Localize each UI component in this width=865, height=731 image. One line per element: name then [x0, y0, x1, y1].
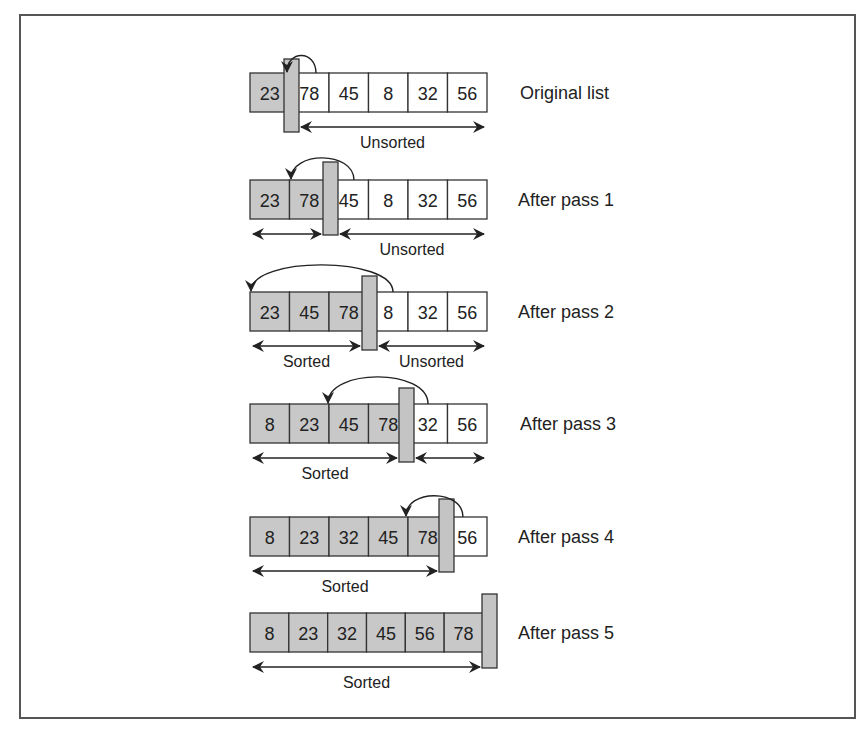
- cell-value: 32: [418, 303, 438, 323]
- cell-value: 32: [418, 84, 438, 104]
- cell-value: 23: [298, 624, 318, 644]
- cell-value: 78: [299, 84, 319, 104]
- array-cell: 56: [448, 404, 488, 443]
- array-cell: 78: [444, 613, 483, 652]
- pass-label: Original list: [520, 83, 609, 103]
- array-cell: 8: [250, 613, 289, 652]
- cell-value: 45: [339, 415, 359, 435]
- array-cell: 32: [408, 73, 448, 112]
- partition-divider: [482, 594, 497, 668]
- array-cell: 8: [250, 404, 290, 443]
- array-cell: 45: [290, 292, 330, 331]
- cell-value: 23: [260, 191, 280, 211]
- array-cell: 32: [408, 180, 448, 219]
- cell-value: 56: [457, 303, 477, 323]
- cell-value: 45: [339, 191, 359, 211]
- cell-value: 45: [376, 624, 396, 644]
- cell-value: 56: [457, 415, 477, 435]
- array-cell: 56: [448, 73, 488, 112]
- array-cell: 56: [448, 180, 488, 219]
- partition-divider: [323, 162, 338, 235]
- array-cell: 32: [328, 613, 367, 652]
- partition-divider: [439, 499, 454, 572]
- partition-divider: [284, 59, 299, 132]
- array-cell: 45: [369, 517, 409, 556]
- array-cell: 56: [405, 613, 444, 652]
- array-cell: 8: [369, 73, 409, 112]
- cell-value: 56: [415, 624, 435, 644]
- cell-value: 8: [383, 84, 393, 104]
- cell-value: 56: [457, 191, 477, 211]
- cell-value: 32: [418, 191, 438, 211]
- cell-value: 32: [418, 415, 438, 435]
- array-cell: 23: [250, 180, 290, 219]
- pass-label: After pass 3: [520, 414, 616, 434]
- pass-row: 23784583256UnsortedOriginal list: [250, 55, 609, 150]
- span-label: Sorted: [301, 465, 348, 482]
- cell-value: 45: [299, 303, 319, 323]
- span-label: Sorted: [321, 578, 368, 595]
- array-cell: 45: [367, 613, 406, 652]
- cell-value: 45: [378, 528, 398, 548]
- cell-value: 32: [337, 624, 357, 644]
- cell-value: 8: [383, 191, 393, 211]
- cell-value: 23: [299, 528, 319, 548]
- pass-label: After pass 2: [518, 302, 614, 322]
- array-cell: 23: [290, 404, 330, 443]
- pass-row: 82332457856SortedAfter pass 4: [250, 496, 614, 595]
- cell-value: 45: [339, 84, 359, 104]
- cell-value: 23: [299, 415, 319, 435]
- array-cell: 23: [250, 292, 290, 331]
- cell-value: 23: [260, 303, 280, 323]
- array-cell: 45: [329, 73, 369, 112]
- array-cell: 8: [369, 180, 409, 219]
- array-cell: 32: [329, 517, 369, 556]
- pass-row: 23457883256SortedUnsortedAfter pass 2: [250, 265, 614, 370]
- cell-value: 23: [260, 84, 280, 104]
- cell-value: 78: [339, 303, 359, 323]
- cell-value: 56: [457, 528, 477, 548]
- array-cell: 23: [290, 517, 330, 556]
- pass-label: After pass 1: [518, 190, 614, 210]
- pass-row: 23784583256UnsortedAfter pass 1: [250, 158, 614, 258]
- array-cell: 45: [329, 404, 369, 443]
- cell-value: 78: [299, 191, 319, 211]
- pass-label: After pass 5: [518, 623, 614, 643]
- array-cell: 8: [250, 517, 290, 556]
- pass-label: After pass 4: [518, 527, 614, 547]
- cell-value: 8: [383, 303, 393, 323]
- span-label: Unsorted: [399, 353, 464, 370]
- cell-value: 32: [339, 528, 359, 548]
- pass-row: 82332455678SortedAfter pass 5: [250, 594, 614, 691]
- array-cell: 56: [448, 292, 488, 331]
- cell-value: 56: [457, 84, 477, 104]
- span-label: Unsorted: [380, 241, 445, 258]
- partition-divider: [399, 388, 414, 462]
- partition-divider: [362, 276, 377, 350]
- cell-value: 8: [264, 624, 274, 644]
- array-cell: 32: [408, 292, 448, 331]
- pass-row: 82345783256SortedAfter pass 3: [250, 377, 616, 482]
- cell-value: 8: [265, 415, 275, 435]
- cell-value: 8: [265, 528, 275, 548]
- cell-value: 78: [454, 624, 474, 644]
- insertion-sort-diagram: 23784583256UnsortedOriginal list23784583…: [0, 0, 865, 731]
- span-label: Unsorted: [360, 134, 425, 151]
- cell-value: 78: [418, 528, 438, 548]
- cell-value: 78: [378, 415, 398, 435]
- span-label: Sorted: [343, 674, 390, 691]
- array-cell: 23: [289, 613, 328, 652]
- span-label: Sorted: [283, 353, 330, 370]
